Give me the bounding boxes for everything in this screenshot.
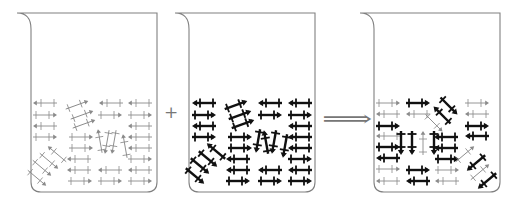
thick-molecule-arrow-icon: [192, 133, 216, 142]
thin-molecule-arrow-icon: [128, 122, 152, 130]
thick-molecule-arrow-icon: [465, 132, 489, 141]
yields-arrow-operator: ⟹: [322, 110, 372, 128]
beaker-3: [360, 13, 500, 192]
thick-molecule-arrow-icon: [430, 131, 439, 155]
thick-molecule-arrow-icon: [258, 99, 282, 108]
thin-molecule-arrow-icon: [128, 155, 152, 163]
thick-molecule-arrow-icon: [408, 131, 417, 155]
thick-molecule-arrow-icon: [288, 155, 312, 164]
thin-molecule-arrow-icon: [33, 111, 57, 119]
thin-molecule-arrow-icon: [64, 97, 89, 113]
thick-molecule-arrow-icon: [288, 177, 312, 186]
thick-molecule-arrow-icon: [397, 131, 406, 155]
thin-molecule-arrow-icon: [98, 111, 122, 119]
thin-molecule-arrow-icon: [376, 99, 400, 107]
thin-molecule-arrow-icon: [128, 133, 152, 141]
thick-molecule-arrow-icon: [258, 166, 282, 175]
thick-molecule-arrow-icon: [258, 111, 282, 120]
thin-molecule-arrow-icon: [45, 143, 69, 165]
thick-molecule-arrow-icon: [228, 133, 252, 142]
thick-molecule-arrow-icon: [434, 144, 458, 153]
thin-molecule-arrow-icon: [67, 166, 91, 174]
thin-molecule-arrow-icon: [69, 144, 93, 152]
thin-molecule-arrow-icon: [69, 107, 94, 123]
thick-molecule-arrow-icon: [192, 99, 216, 108]
thin-molecule-arrow-icon: [128, 177, 152, 185]
thick-molecule-arrow-icon: [192, 111, 216, 120]
beakers-layer: [17, 13, 500, 192]
thin-molecule-arrow-icon: [376, 177, 400, 185]
thick-molecule-arrow-icon: [376, 154, 400, 163]
thin-molecule-arrow-icon: [376, 165, 400, 173]
thick-molecule-arrow-icon: [251, 128, 264, 153]
thin-molecule-arrow-icon: [94, 128, 106, 153]
plus-operator: +: [164, 104, 178, 121]
thin-molecule-arrow-icon: [128, 99, 152, 107]
beaker-outline: [360, 13, 500, 192]
thin-molecule-arrow-icon: [128, 166, 152, 174]
thin-molecule-arrow-icon: [68, 177, 92, 185]
thin-molecule-arrow-icon: [98, 166, 122, 174]
thick-molecule-arrow-icon: [226, 155, 250, 164]
thin-molecule-arrow-icon: [419, 131, 427, 155]
thick-molecule-arrow-icon: [192, 122, 216, 131]
thick-molecule-arrow-icon: [258, 177, 282, 186]
thin-molecule-arrow-icon: [69, 133, 93, 141]
thick-molecule-arrow-icon: [435, 155, 459, 164]
thin-molecule-arrow-icon: [33, 122, 57, 130]
thick-molecule-arrow-icon: [465, 122, 489, 131]
thin-molecule-arrow-icon: [376, 132, 400, 140]
thick-molecule-arrow-icon: [406, 177, 430, 186]
thin-molecule-arrow-icon: [435, 177, 459, 185]
thin-molecule-arrow-icon: [98, 177, 122, 185]
thin-molecule-arrow-icon: [465, 99, 489, 107]
thick-molecule-arrow-icon: [406, 99, 430, 108]
thin-molecule-arrow-icon: [71, 116, 96, 132]
thick-molecule-arrow-icon: [288, 133, 312, 142]
thick-molecule-arrow-icon: [406, 166, 430, 175]
thick-molecule-arrow-icon: [288, 122, 312, 131]
thin-molecule-arrow-icon: [376, 110, 400, 118]
thin-molecule-arrow-icon: [67, 155, 91, 163]
thin-molecule-arrow-icon: [33, 99, 57, 107]
thick-molecule-arrow-icon: [288, 166, 312, 175]
thick-molecule-arrow-icon: [288, 111, 312, 120]
beaker-1: [17, 13, 157, 192]
thin-molecule-arrow-icon: [37, 150, 61, 172]
thick-molecule-arrow-icon: [376, 122, 400, 131]
thick-molecule-arrow-icon: [228, 144, 252, 153]
thick-molecule-arrow-icon: [278, 133, 291, 158]
thin-molecule-arrow-icon: [33, 133, 57, 141]
thick-molecule-arrow-icon: [288, 99, 312, 108]
thick-molecule-arrow-icon: [288, 144, 312, 153]
thin-molecule-arrow-icon: [453, 143, 477, 165]
thin-molecule-arrow-icon: [128, 111, 152, 119]
thick-molecule-arrow-icon: [223, 97, 249, 114]
beaker-2: [175, 13, 315, 192]
thick-molecule-arrow-icon: [376, 143, 400, 152]
thin-molecule-arrow-icon: [406, 110, 430, 118]
diagram-canvas: [0, 0, 517, 203]
thin-molecule-arrow-icon: [99, 99, 123, 107]
thin-molecule-arrow-icon: [465, 110, 489, 118]
thin-molecule-arrow-icon: [128, 144, 152, 152]
thin-molecule-arrow-icon: [435, 166, 459, 174]
thick-molecule-arrow-icon: [226, 166, 250, 175]
thick-molecule-arrow-icon: [226, 177, 250, 186]
